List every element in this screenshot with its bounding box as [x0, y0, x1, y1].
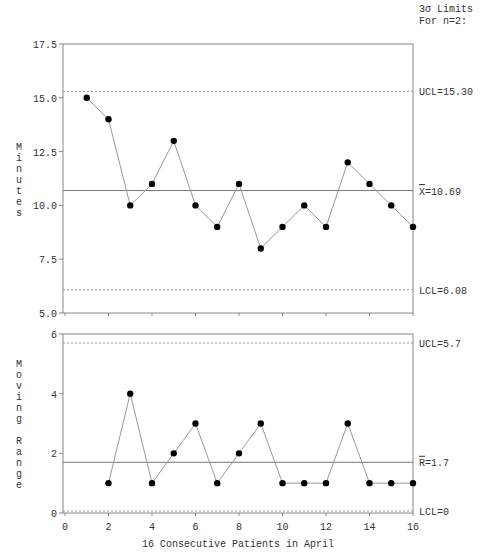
moving-range-panel: 0246 0246810121416 UCL=5.7 R=1.7 LCL=0 M…: [16, 330, 461, 550]
individuals-ucl-label: UCL=15.30: [419, 87, 473, 98]
moving-range-points: [105, 390, 416, 486]
moving-range-data-point: [301, 480, 307, 486]
moving-range-y-tick-label: 4: [51, 390, 57, 401]
individuals-y-label-char: M: [16, 142, 22, 153]
moving-range-ucl-label: UCL=5.7: [419, 339, 461, 350]
moving-range-center-label-group: R=1.7: [419, 456, 449, 469]
individuals-panel: 5.07.510.012.515.017.5 3σ Limits For n=2…: [16, 4, 473, 320]
moving-range-x-tick-label: 4: [149, 522, 155, 533]
moving-range-data-point: [105, 480, 111, 486]
moving-range-data-point: [214, 480, 220, 486]
individuals-y-label-char: s: [16, 208, 22, 219]
individuals-y-label-char: n: [16, 164, 22, 175]
individuals-y-label-char: u: [16, 175, 22, 186]
individuals-points: [84, 95, 417, 252]
moving-range-x-tick-label: 8: [236, 522, 242, 533]
moving-range-x-tick-label: 2: [105, 522, 111, 533]
individuals-y-axis-label: Minutes: [16, 142, 22, 219]
individuals-data-point: [105, 116, 111, 122]
individuals-y-tick-label: 10.0: [33, 201, 57, 212]
individuals-y-label-char: i: [16, 153, 22, 164]
moving-range-y-label-char: n: [16, 403, 22, 414]
moving-range-data-point: [323, 480, 329, 486]
individuals-y-label-char: e: [16, 197, 22, 208]
moving-range-y-label-char: M: [16, 359, 22, 370]
individuals-data-point: [410, 224, 416, 230]
individuals-y-tick-label: 12.5: [33, 148, 57, 159]
individuals-data-point: [127, 202, 133, 208]
moving-range-x-tick-label: 0: [62, 522, 68, 533]
individuals-y-ticks: 5.07.510.012.515.017.5: [33, 40, 63, 320]
individuals-y-label-char: t: [16, 186, 22, 197]
individuals-y-tick-label: 5.0: [39, 309, 57, 320]
individuals-data-point: [388, 202, 394, 208]
individuals-data-point: [171, 138, 177, 144]
individuals-data-point: [236, 181, 242, 187]
moving-range-x-tick-label: 14: [363, 522, 375, 533]
moving-range-y-label-char: R: [16, 436, 22, 447]
individuals-data-point: [192, 202, 198, 208]
moving-range-series-line: [109, 394, 414, 484]
individuals-data-point: [258, 245, 264, 251]
individuals-data-point: [149, 181, 155, 187]
limits-header-line1: 3σ Limits: [419, 4, 473, 15]
individuals-center-label: X=10.69: [419, 187, 461, 198]
individuals-y-tick-label: 17.5: [33, 40, 57, 51]
moving-range-data-point: [236, 450, 242, 456]
moving-range-data-point: [192, 420, 198, 426]
moving-range-data-point: [279, 480, 285, 486]
individuals-center-label-group: X=10.69: [419, 185, 461, 198]
moving-range-data-point: [258, 420, 264, 426]
moving-range-data-point: [366, 480, 372, 486]
moving-range-y-tick-label: 2: [51, 449, 57, 460]
moving-range-x-tick-label: 16: [407, 522, 419, 533]
individuals-data-point: [214, 224, 220, 230]
moving-range-y-label-char: n: [16, 458, 22, 469]
limits-header-line2: For n=2:: [419, 16, 467, 27]
individuals-data-point: [345, 159, 351, 165]
moving-range-y-label-char: i: [16, 392, 22, 403]
individuals-lcl-label: LCL=6.08: [419, 286, 467, 297]
moving-range-y-label-char: e: [16, 480, 22, 491]
moving-range-x-tick-label: 10: [276, 522, 288, 533]
moving-range-data-point: [388, 480, 394, 486]
moving-range-y-tick-label: 6: [51, 330, 57, 341]
moving-range-data-point: [127, 390, 133, 396]
moving-range-lcl-label: LCL=0: [419, 507, 449, 518]
individuals-data-point: [279, 224, 285, 230]
moving-range-center-label: R=1.7: [419, 458, 449, 469]
moving-range-data-point: [171, 450, 177, 456]
moving-range-data-point: [149, 480, 155, 486]
individuals-data-point: [366, 181, 372, 187]
control-chart: 5.07.510.012.515.017.5 3σ Limits For n=2…: [0, 0, 481, 560]
moving-range-y-label-char: a: [16, 447, 22, 458]
individuals-y-tick-label: 7.5: [39, 255, 57, 266]
individuals-data-point: [323, 224, 329, 230]
moving-range-y-label-char: v: [16, 381, 22, 392]
moving-range-data-point: [410, 480, 416, 486]
moving-range-y-tick-label: 0: [51, 509, 57, 520]
x-axis-label: 16 Consecutive Patients in April: [142, 539, 334, 550]
moving-range-x-ticks: 0246810121416: [62, 513, 419, 533]
moving-range-x-tick-label: 6: [192, 522, 198, 533]
moving-range-data-point: [345, 420, 351, 426]
moving-range-y-label-char: g: [16, 414, 22, 425]
moving-range-y-ticks: 0246: [51, 330, 63, 520]
individuals-data-point: [84, 95, 90, 101]
moving-range-y-label-char: o: [16, 370, 22, 381]
moving-range-y-label-char: g: [16, 469, 22, 480]
moving-range-x-tick-label: 12: [320, 522, 332, 533]
individuals-data-point: [301, 202, 307, 208]
moving-range-plot-frame: [63, 334, 413, 513]
moving-range-y-axis-label: MovingRange: [16, 359, 22, 491]
individuals-plot-frame: [63, 44, 413, 313]
individuals-y-tick-label: 15.0: [33, 94, 57, 105]
individuals-series-line: [87, 98, 413, 249]
